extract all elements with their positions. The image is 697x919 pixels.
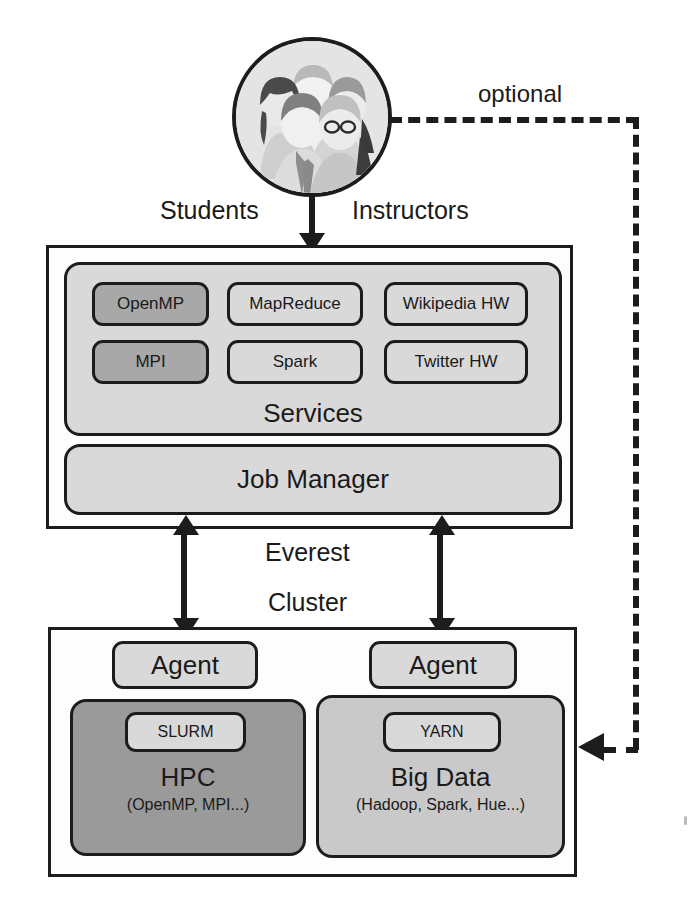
- services-title: Services: [64, 396, 562, 430]
- instructors-label: Instructors: [352, 196, 469, 225]
- optional-dashed-tail: [604, 747, 638, 753]
- service-spark[interactable]: Spark: [227, 340, 363, 384]
- right-connector-line: [437, 533, 443, 623]
- students-label: Students: [160, 196, 259, 225]
- yarn-box[interactable]: YARN: [383, 712, 501, 752]
- agent-hpc-label: Agent: [151, 650, 219, 681]
- service-wikipedia-hw[interactable]: Wikipedia HW: [384, 282, 528, 326]
- service-openmp-label: OpenMP: [117, 294, 184, 314]
- service-twitter-hw-label: Twitter HW: [414, 352, 497, 372]
- slurm-box[interactable]: SLURM: [125, 712, 246, 752]
- everest-label: Everest: [265, 538, 350, 567]
- users-to-everest-line: [309, 193, 315, 235]
- hpc-subtitle: (OpenMP, MPI...): [70, 793, 306, 817]
- service-mapreduce[interactable]: MapReduce: [227, 282, 363, 326]
- optional-label: optional: [478, 80, 562, 108]
- optional-dashed-vertical: [633, 117, 639, 750]
- right-connector-arrow-up: [429, 515, 455, 535]
- hpc-title: HPC: [70, 762, 306, 792]
- agent-box-bigdata[interactable]: Agent: [369, 641, 517, 689]
- service-mpi[interactable]: MPI: [92, 340, 209, 384]
- service-mapreduce-label: MapReduce: [249, 294, 341, 314]
- service-spark-label: Spark: [273, 352, 317, 372]
- cluster-label: Cluster: [268, 588, 347, 617]
- service-twitter-hw[interactable]: Twitter HW: [384, 340, 528, 384]
- service-wikipedia-hw-label: Wikipedia HW: [403, 294, 510, 314]
- job-manager-label: Job Manager: [237, 464, 389, 495]
- yarn-label: YARN: [420, 723, 463, 741]
- service-openmp[interactable]: OpenMP: [92, 282, 209, 326]
- optional-arrowhead: [578, 733, 604, 761]
- service-mpi-label: MPI: [135, 352, 165, 372]
- scan-artifact: [684, 816, 687, 825]
- left-connector-line: [181, 533, 187, 623]
- left-connector-arrow-up: [173, 515, 199, 535]
- diagram-canvas: Students Instructors optional OpenMP Map…: [0, 0, 697, 919]
- agent-box-hpc[interactable]: Agent: [112, 641, 258, 689]
- bigdata-title: Big Data: [316, 762, 565, 792]
- bigdata-subtitle: (Hadoop, Spark, Hue...): [316, 793, 565, 817]
- agent-bigdata-label: Agent: [409, 650, 477, 681]
- job-manager-box[interactable]: Job Manager: [64, 444, 562, 515]
- optional-dashed-horizontal: [390, 117, 638, 123]
- slurm-label: SLURM: [157, 723, 213, 741]
- people-group-icon: [232, 37, 392, 197]
